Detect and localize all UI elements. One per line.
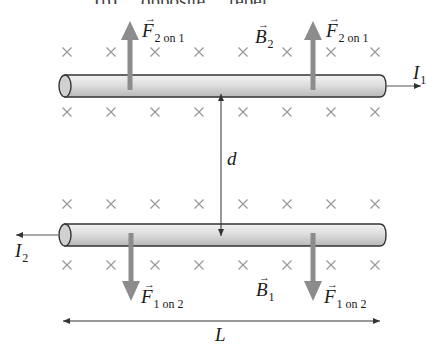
current-label-i2: I2	[15, 240, 28, 262]
field-x-icon	[283, 200, 292, 209]
field-x-icon	[63, 48, 72, 57]
force-label-1on2-left: →F1 on 2	[141, 286, 184, 308]
field-x-icon	[371, 48, 380, 57]
force-label-1on2-right: →F1 on 2	[324, 286, 367, 308]
field-x-icon	[63, 108, 72, 117]
field-x-icon	[195, 261, 204, 270]
field-x-icon	[371, 200, 380, 209]
wire-2	[59, 224, 386, 246]
field-x-icon	[239, 108, 248, 117]
field-x-icon	[107, 200, 116, 209]
field-x-icon	[151, 48, 160, 57]
length-label: L	[215, 324, 226, 346]
field-x-icon	[195, 200, 204, 209]
field-x-icon	[239, 48, 248, 57]
field-x-icon	[107, 261, 116, 270]
force-label-2on1-left: →F2 on 1	[142, 20, 185, 42]
field-x-icon	[195, 108, 204, 117]
field-x-icon	[327, 48, 336, 57]
field-x-icon	[195, 48, 204, 57]
force-label-2on1-right: →F2 on 1	[326, 20, 369, 42]
field-x-icon	[63, 261, 72, 270]
field-x-icon	[151, 200, 160, 209]
field-x-icon	[283, 48, 292, 57]
field-x-icon	[239, 261, 248, 270]
field-x-icon	[107, 108, 116, 117]
field-x-icon	[371, 108, 380, 117]
wire-1	[59, 75, 386, 97]
field-x-icon	[151, 261, 160, 270]
field-label-b2: →B2	[255, 26, 274, 48]
field-x-icon	[107, 48, 116, 57]
current-label-i1: I1	[413, 62, 426, 84]
field-x-icon	[63, 200, 72, 209]
field-x-icon	[151, 108, 160, 117]
top-caption-cutoff: (b) ... opposite ... repel	[0, 0, 425, 4]
field-x-icon	[283, 261, 292, 270]
separation-label: d	[227, 148, 237, 170]
field-x-icon	[327, 200, 336, 209]
field-x-icon	[327, 108, 336, 117]
field-x-icon	[371, 261, 380, 270]
field-x-icon	[283, 108, 292, 117]
field-x-icon	[239, 200, 248, 209]
field-label-b1: →B1	[256, 279, 275, 301]
field-x-icon	[327, 261, 336, 270]
